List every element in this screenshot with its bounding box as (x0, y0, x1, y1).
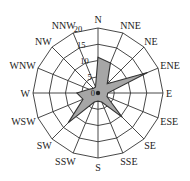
direction-label-sw: SW (37, 140, 53, 151)
direction-label-wnw: WNW (10, 60, 37, 71)
radial-tick-label: 0 (91, 88, 95, 98)
direction-label-ene: ENE (160, 60, 179, 71)
direction-label-w: W (21, 88, 31, 99)
direction-label-sse: SSE (120, 156, 137, 167)
direction-label-n: N (94, 14, 101, 25)
direction-label-e: E (166, 88, 172, 99)
direction-label-ssw: SSW (55, 156, 76, 167)
direction-label-wsw: WSW (11, 116, 36, 127)
center-point (96, 91, 100, 95)
direction-label-nnw: NNW (52, 20, 76, 31)
spoke-nw (52, 47, 98, 93)
radial-tick-label: 5 (88, 72, 92, 82)
direction-label-ne: NE (144, 36, 157, 47)
radial-tick-label: 10 (80, 56, 89, 66)
direction-label-se: SE (144, 140, 156, 151)
direction-label-ese: ESE (160, 116, 178, 127)
radial-tick-label: 20 (74, 24, 83, 34)
direction-label-s: S (95, 162, 101, 173)
radial-tick-label: 15 (77, 40, 86, 50)
direction-label-nw: NW (35, 36, 52, 47)
direction-label-nne: NNE (120, 20, 141, 31)
wind-rose-chart: NNNENEENEEESESESSESSSWSWWSWWWNWNWNNW 051… (0, 0, 190, 181)
